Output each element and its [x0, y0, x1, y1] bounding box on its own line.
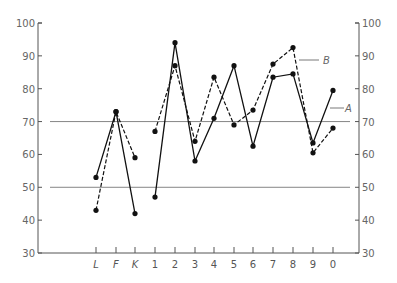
series-b-point: [113, 109, 118, 114]
left-y-tick-label: 80: [22, 84, 35, 95]
right-y-tick-label: 80: [362, 84, 375, 95]
series-b-point: [330, 126, 335, 131]
right-y-tick-label: 30: [362, 248, 375, 259]
series-b-point: [172, 63, 177, 68]
series-a-point: [250, 144, 255, 149]
series-b-point: [192, 139, 197, 144]
series-a-point: [172, 40, 177, 45]
left-y-tick-label: 70: [22, 117, 35, 128]
left-y-tick-label: 40: [22, 215, 35, 226]
series-b-point: [132, 155, 137, 160]
series-b-point: [152, 129, 157, 134]
series-a-point: [270, 75, 275, 80]
right-y-tick-label: 70: [362, 117, 375, 128]
series-a-point: [231, 63, 236, 68]
series-b-label: B: [323, 55, 330, 66]
x-tick-label: F: [113, 259, 119, 270]
series-b-line: [96, 112, 135, 211]
right-y-tick-label: 40: [362, 215, 375, 226]
x-tick-label: L: [93, 259, 99, 270]
left-y-tick-label: 60: [22, 149, 35, 160]
series-b-point: [93, 208, 98, 213]
x-tick-label: 7: [270, 259, 276, 270]
x-tick-label: 8: [290, 259, 296, 270]
series-a-point: [290, 71, 295, 76]
axis-frame: [38, 23, 359, 253]
x-tick-label: 1: [152, 259, 158, 270]
series-b-point: [211, 75, 216, 80]
x-tick-label: 9: [310, 259, 316, 270]
series-a-point: [330, 88, 335, 93]
series-b-point: [310, 150, 315, 155]
series-a-point: [192, 158, 197, 163]
series-a-point: [152, 195, 157, 200]
left-y-tick-label: 100: [16, 18, 35, 29]
series-a-label: A: [344, 103, 352, 114]
left-y-tick-label: 90: [22, 51, 35, 62]
left-y-tick-label: 50: [22, 182, 35, 193]
x-tick-label: 2: [172, 259, 178, 270]
series-a-point: [310, 140, 315, 145]
series-b-point: [270, 62, 275, 67]
x-tick-label: K: [132, 259, 140, 270]
series-b-line: [155, 48, 333, 153]
x-tick-label: 4: [211, 259, 217, 270]
series-b-point: [231, 122, 236, 127]
right-y-tick-label: 50: [362, 182, 375, 193]
series-annotations: B A: [299, 55, 352, 114]
x-tick-label: 6: [250, 259, 256, 270]
right-y-tick-label: 60: [362, 149, 375, 160]
series-a-line: [96, 112, 135, 214]
right-y-tick-label: 90: [362, 51, 375, 62]
series-b-point: [250, 108, 255, 113]
line-chart: 3040506070809010030405060708090100LFK123…: [0, 0, 397, 283]
right-y-tick-label: 100: [362, 18, 381, 29]
series-a-point: [211, 116, 216, 121]
x-tick-label: 0: [330, 259, 336, 270]
x-tick-label: 3: [192, 259, 198, 270]
left-y-tick-label: 30: [22, 248, 35, 259]
series-a-point: [93, 175, 98, 180]
series-lines: [93, 40, 335, 216]
x-tick-label: 5: [231, 259, 237, 270]
series-b-point: [290, 45, 295, 50]
series-a-point: [132, 211, 137, 216]
